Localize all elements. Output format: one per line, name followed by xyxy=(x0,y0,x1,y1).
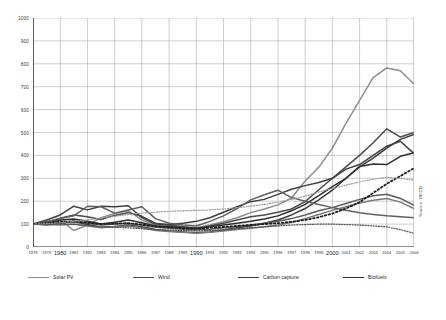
x-axis-tick-label: 2002 xyxy=(355,250,364,255)
x-axis-tick-label: 1999 xyxy=(314,250,323,255)
source-label: Source: OECD xyxy=(418,186,423,217)
x-axis-tick-label: 2005 xyxy=(396,250,405,255)
legend-item[interactable]: Wind xyxy=(133,274,238,280)
x-axis-tick-label: 1994 xyxy=(246,250,255,255)
x-axis-tick-label: 1997 xyxy=(287,250,296,255)
x-axis-labels: 1978197919801981198219831984198519861987… xyxy=(33,250,414,262)
chart-legend: Solar PVWindCarbon captureBiofuelsHydro/… xyxy=(28,270,440,312)
x-axis-tick-label: 1991 xyxy=(205,250,214,255)
y-axis-tick-label: 1000 xyxy=(18,16,29,21)
legend-label: Wind xyxy=(158,274,170,280)
x-axis-tick-label: 1983 xyxy=(96,250,105,255)
x-axis-tick-label: 1981 xyxy=(69,250,78,255)
y-axis-tick-label: 300 xyxy=(21,176,29,181)
x-axis-tick-label: 2004 xyxy=(382,250,391,255)
legend-item[interactable]: Carbon capture xyxy=(238,274,343,280)
y-axis-tick-label: 600 xyxy=(21,107,29,112)
x-axis-tick-label: 1995 xyxy=(260,250,269,255)
legend-item[interactable]: Solar PV xyxy=(28,274,133,280)
x-axis-tick-label: 1998 xyxy=(301,250,310,255)
x-axis-tick-label: 2001 xyxy=(341,250,350,255)
x-axis-tick-label: 1988 xyxy=(165,250,174,255)
y-axis-tick-label: 400 xyxy=(21,153,29,158)
legend-swatch-icon xyxy=(238,277,259,278)
x-axis-tick-label: 1980 xyxy=(54,250,66,256)
x-axis-tick-label: 1993 xyxy=(233,250,242,255)
x-axis-tick-label: 1986 xyxy=(137,250,146,255)
y-axis-tick-label: 0 xyxy=(26,245,29,250)
y-axis-tick-label: 100 xyxy=(21,222,29,227)
chart-page: 01002003004005006007008009001000 1978197… xyxy=(0,0,446,320)
x-axis-tick-label: 1992 xyxy=(219,250,228,255)
y-axis-tick-label: 500 xyxy=(21,130,29,135)
legend-label: Solar PV xyxy=(53,274,74,280)
x-axis-tick-label: 1984 xyxy=(110,250,119,255)
x-axis-tick-label: 1989 xyxy=(178,250,187,255)
x-axis-tick-label: 1985 xyxy=(124,250,133,255)
legend-swatch-icon xyxy=(28,277,49,278)
x-axis-tick-label: 2006 xyxy=(409,250,418,255)
x-axis-tick-label: 1990 xyxy=(190,250,202,256)
legend-swatch-icon xyxy=(343,277,364,278)
legend-item[interactable]: Biofuels xyxy=(343,274,446,280)
x-axis-tick-label: 2000 xyxy=(326,250,338,256)
y-axis-tick-label: 200 xyxy=(21,199,29,204)
y-axis-tick-label: 900 xyxy=(21,38,29,43)
x-axis-tick-label: 1978 xyxy=(28,250,37,255)
y-axis-tick-label: 800 xyxy=(21,61,29,66)
line-chart-svg xyxy=(33,18,414,247)
legend-swatch-icon xyxy=(133,277,154,278)
legend-label: Biofuels xyxy=(368,274,387,280)
legend-label: Carbon capture xyxy=(263,274,299,280)
x-axis-tick-label: 1979 xyxy=(42,250,51,255)
plot-area: 01002003004005006007008009001000 xyxy=(33,18,414,247)
x-axis-tick-label: 1982 xyxy=(83,250,92,255)
y-axis-tick-label: 700 xyxy=(21,84,29,89)
x-axis-tick-label: 2003 xyxy=(369,250,378,255)
x-axis-tick-label: 1996 xyxy=(273,250,282,255)
x-axis-tick-label: 1987 xyxy=(151,250,160,255)
